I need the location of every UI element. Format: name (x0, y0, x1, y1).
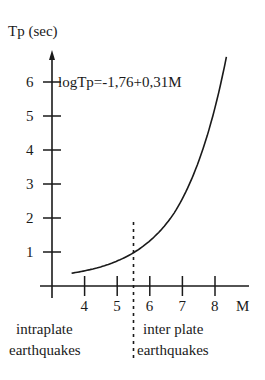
x-tick-label: 5 (113, 298, 121, 314)
formula-annotation: logTp=-1,76+0,31M (58, 74, 182, 90)
y-tick-label: 5 (26, 108, 34, 124)
x-tick-label: 7 (178, 298, 186, 314)
y-tick-label: 2 (26, 210, 34, 226)
region-left-label-2: earthquakes (9, 342, 81, 358)
y-tick-label: 1 (26, 244, 34, 260)
region-right-label-2: earthquakes (137, 342, 209, 358)
x-axis-label: M (236, 298, 249, 314)
y-tick-label: 4 (26, 142, 34, 158)
y-axis-label: Tp (sec) (8, 23, 58, 40)
y-tick-label: 3 (26, 176, 34, 192)
region-right-label-1: inter plate (143, 321, 204, 337)
x-tick-label: 8 (211, 298, 219, 314)
x-tick-label: 4 (81, 298, 89, 314)
y-axis-arrow (49, 50, 55, 60)
x-tick-label: 6 (146, 298, 154, 314)
chart: Tp (sec) 123456 45678 M logTp=-1,76+0,31… (0, 0, 265, 380)
region-left-label-1: intraplate (16, 321, 73, 337)
y-tick-label: 6 (26, 74, 34, 90)
